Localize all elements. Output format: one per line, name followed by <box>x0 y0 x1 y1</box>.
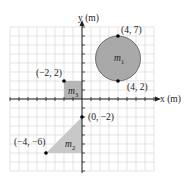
point-marker <box>44 151 48 155</box>
point-marker <box>62 79 66 83</box>
point-label-0-neg2: (0, −2) <box>88 113 114 123</box>
y-axis-label: y (m) <box>78 14 99 24</box>
point-marker <box>116 79 120 83</box>
coordinate-plane <box>0 0 192 181</box>
point-label-neg2-2: (−2, 2) <box>36 69 62 79</box>
point-label-4-2: (4, 2) <box>127 83 148 93</box>
x-axis-label: x (m) <box>160 95 181 105</box>
mass-label-m3: m3 <box>68 87 78 98</box>
mass-label-m1: m1 <box>114 54 124 65</box>
point-marker <box>80 115 84 119</box>
point-label-4-7: (4, 7) <box>121 26 142 36</box>
center-of-mass-diagram: y (m) x (m) (4, 7) (4, 2) (−2, 2) (0, −2… <box>0 0 192 181</box>
mass-label-m2: m2 <box>65 140 75 151</box>
point-marker <box>116 34 120 38</box>
point-label-neg4-neg6: (−4, −6) <box>14 138 45 148</box>
